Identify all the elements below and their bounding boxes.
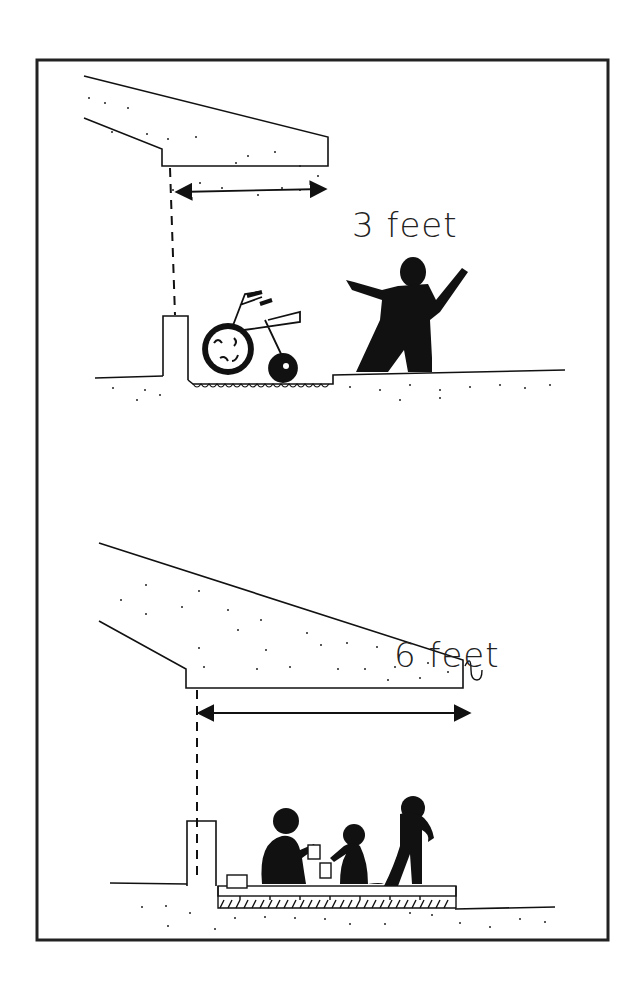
ground-stipple-top	[112, 384, 551, 401]
frame-border	[37, 60, 608, 940]
panel-bottom	[99, 543, 555, 930]
post-base-top	[163, 316, 188, 380]
paved-floor	[218, 886, 456, 908]
overhang-label-6-feet: 6 feet	[394, 635, 500, 675]
children-playing	[227, 796, 434, 888]
roof-overhang-top	[84, 76, 328, 166]
illustration-canvas	[0, 0, 634, 986]
panel-top	[84, 76, 565, 401]
post-base-bottom	[187, 821, 216, 886]
ground-line-top	[95, 370, 565, 384]
overhang-label-3-feet: 3 feet	[352, 205, 458, 245]
tricycle	[203, 292, 300, 382]
dimension-arrow-top	[178, 189, 324, 192]
child-silhouette	[346, 257, 468, 372]
roof-stipple-top	[88, 97, 319, 196]
